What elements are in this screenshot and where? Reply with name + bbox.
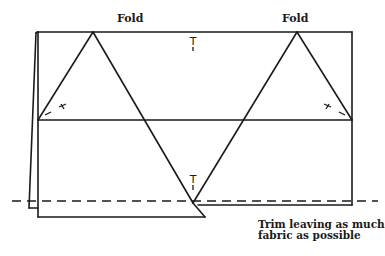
left-long-diagonal — [93, 32, 193, 203]
right-angle-mark-icon — [324, 104, 345, 115]
trim-instruction-line2: fabric as possible — [258, 230, 385, 241]
fold-label-left: Fold — [117, 12, 143, 25]
trim-instruction: Trim leaving as much fabric as possible — [258, 219, 385, 241]
right-long-diagonal — [193, 32, 297, 203]
fold-label-right: Fold — [282, 12, 308, 25]
left-outer-edge — [29, 33, 36, 208]
bottom-center-t-marker: T — [189, 173, 197, 186]
left-angle-mark-icon — [45, 104, 66, 115]
right-triangle-side — [297, 32, 352, 120]
left-triangle-side — [38, 32, 93, 120]
left-top-cap — [36, 32, 38, 33]
top-center-t-marker: T — [189, 35, 197, 48]
